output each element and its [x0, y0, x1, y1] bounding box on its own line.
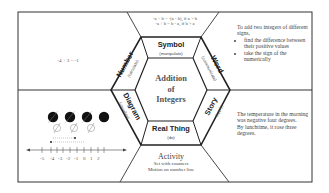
story-content: The temperature in the morning was negat…: [237, 111, 311, 137]
real-thing-label-sub: (do): [144, 135, 198, 140]
filled-counters: [48, 111, 109, 123]
number-content: -4 + 3 = -1: [48, 58, 88, 64]
word-intro: To add two integers of different signs,: [237, 24, 311, 37]
tick-label: 1: [90, 156, 93, 161]
activity-line-2: Motion on number line: [135, 167, 207, 173]
symbol-label: Symbol (manipulate): [146, 40, 196, 56]
symbol-rule-2: -a + b = b - a, if b > a: [130, 21, 220, 26]
activity-content: Activity Set with counters Motion on num…: [135, 152, 207, 173]
number-line-labels: -5 -4 -3 -2 -1 0 1 2: [38, 156, 118, 164]
tick-label: -5: [40, 156, 44, 161]
real-thing-label-main: Real Thing: [144, 124, 198, 133]
story-line-1: The temperature in the morning was negat…: [237, 111, 311, 124]
tick-label: -3: [58, 156, 62, 161]
motion-arrows: [50, 137, 84, 143]
center-title-line-2: of: [145, 85, 197, 96]
symbol-content: -a + b = -(a - b), if a > b -a + b = b -…: [130, 16, 220, 27]
word-bullets: find the difference between their positi…: [237, 37, 311, 63]
tick-label: -1: [74, 156, 78, 161]
word-bullet: find the difference between their positi…: [244, 37, 311, 50]
tick-label: -2: [66, 156, 70, 161]
word-content: To add two integers of different signs, …: [237, 24, 311, 63]
word-bullet: take the sign of the numerically: [244, 50, 311, 63]
real-thing-label: Real Thing (do): [144, 124, 198, 140]
tick-label: 0: [83, 156, 86, 161]
tick-label: -4: [50, 156, 54, 161]
empty-counters: [53, 123, 94, 133]
center-title-line-3: Integers: [145, 95, 197, 106]
symbol-label-sub: (manipulate): [146, 51, 196, 56]
number-line: [26, 147, 127, 153]
symbol-label-main: Symbol: [146, 40, 196, 49]
story-line-2: By lunchtime, it rose three degrees.: [237, 124, 311, 137]
activity-title: Activity: [135, 152, 207, 161]
center-title: Addition of Integers: [145, 74, 197, 106]
center-title-line-1: Addition: [145, 74, 197, 85]
tick-label: 2: [97, 156, 100, 161]
